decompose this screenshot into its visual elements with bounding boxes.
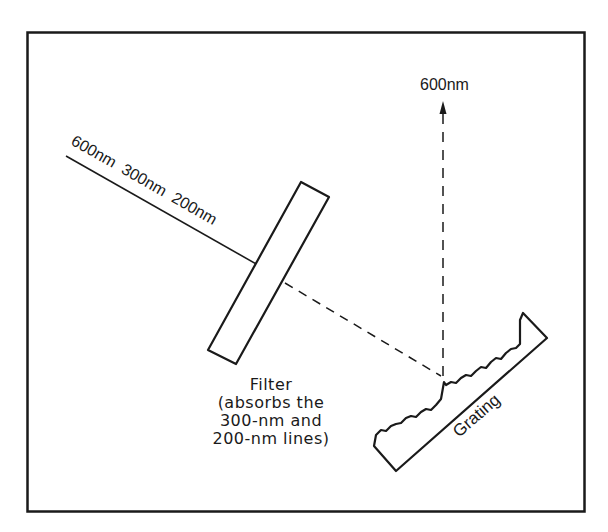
diffraction-grating-diagram: 600nm 300nm 200nm 600nm Grating bbox=[0, 0, 608, 532]
transmitted-beam-line bbox=[285, 283, 441, 376]
incident-beam-line bbox=[66, 156, 258, 265]
incident-beam-label: 600nm 300nm 200nm bbox=[69, 132, 220, 228]
grating bbox=[374, 313, 547, 471]
filter-plate bbox=[208, 182, 329, 364]
filter-caption: Filter (absorbs the 300-nm and 200-nm li… bbox=[196, 376, 346, 448]
filter-description-line-1: (absorbs the bbox=[196, 394, 346, 412]
arrow-up-icon bbox=[440, 101, 447, 114]
filter-description-line-2: 300-nm and bbox=[196, 412, 346, 430]
filter-title: Filter bbox=[196, 376, 346, 394]
filter-description-line-3: 200-nm lines) bbox=[196, 430, 346, 448]
output-beam-label: 600nm bbox=[420, 76, 469, 93]
